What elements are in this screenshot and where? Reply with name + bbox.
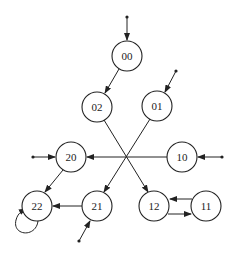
- node-12: 12: [139, 191, 169, 221]
- edge-20-22: [45, 170, 63, 192]
- entry-arrow-20: [31, 155, 55, 158]
- node-01: 01: [142, 91, 172, 121]
- entry-arrow-00: [125, 15, 128, 40]
- svg-text:20: 20: [66, 151, 78, 163]
- svg-text:02: 02: [92, 101, 103, 113]
- node-02: 02: [82, 92, 112, 122]
- svg-text:11: 11: [201, 200, 212, 212]
- state-diagram: 00 02 01 20 10 22 21 12 11: [0, 0, 237, 256]
- node-20: 20: [56, 142, 86, 172]
- node-21: 21: [82, 191, 112, 221]
- node-22: 22: [22, 191, 52, 221]
- node-11: 11: [191, 191, 221, 221]
- entry-arrow-21: [77, 221, 90, 243]
- svg-text:12: 12: [149, 200, 160, 212]
- entry-arrow-01: [165, 69, 178, 92]
- entry-arrow-10: [198, 155, 224, 158]
- edge-01-21: [104, 119, 150, 192]
- node-10: 10: [167, 142, 197, 172]
- node-00: 00: [112, 41, 142, 71]
- svg-text:21: 21: [92, 200, 103, 212]
- svg-text:22: 22: [32, 200, 43, 212]
- svg-text:10: 10: [177, 151, 189, 163]
- edge-00-02: [105, 69, 119, 93]
- svg-text:00: 00: [122, 50, 134, 62]
- svg-text:01: 01: [152, 100, 163, 112]
